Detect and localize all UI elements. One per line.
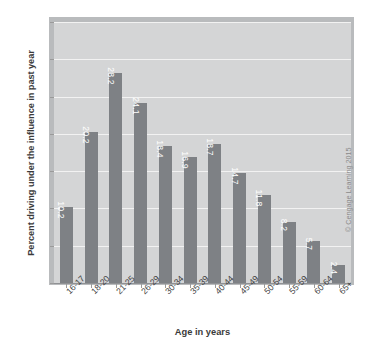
bar-value-label: 11.8 bbox=[254, 190, 264, 207]
bar-series: 10.220.228.224.118.416.918.714.711.88.25… bbox=[54, 22, 351, 283]
bar: 16.9 bbox=[184, 157, 197, 283]
copyright-credit: © Cengage Learning 2015 bbox=[344, 122, 353, 232]
bar-value-label: 10.2 bbox=[56, 201, 66, 219]
bar: 18.4 bbox=[159, 146, 172, 283]
bar-value-label: 8.2 bbox=[279, 219, 289, 232]
bar-value-label: 16.9 bbox=[180, 151, 190, 169]
bar: 8.2 bbox=[283, 222, 296, 283]
bar-value-label: 2.4 bbox=[329, 262, 339, 275]
bar-value-label: 20.2 bbox=[81, 127, 91, 145]
bar-value-label: 5.7 bbox=[304, 237, 314, 250]
bar-value-label: 28.2 bbox=[106, 67, 116, 85]
bar-chart-figure: Percent driving under the influence in p… bbox=[0, 0, 386, 348]
bar-value-label: 18.4 bbox=[155, 140, 165, 158]
bar: 11.8 bbox=[258, 195, 271, 283]
bar: 20.2 bbox=[85, 132, 98, 283]
bar: 14.7 bbox=[233, 173, 246, 283]
x-axis-title: Age in years bbox=[54, 327, 351, 337]
bar: 10.2 bbox=[60, 207, 73, 283]
bar-value-label: 24.1 bbox=[131, 98, 141, 116]
bar: 5.7 bbox=[307, 241, 320, 284]
bar-value-label: 18.7 bbox=[205, 138, 215, 156]
bar: 28.2 bbox=[109, 73, 122, 283]
bar-value-label: 14.7 bbox=[230, 168, 240, 186]
bar: 18.7 bbox=[208, 144, 221, 283]
bar: 24.1 bbox=[134, 103, 147, 283]
y-axis-title: Percent driving under the influence in p… bbox=[26, 22, 36, 284]
